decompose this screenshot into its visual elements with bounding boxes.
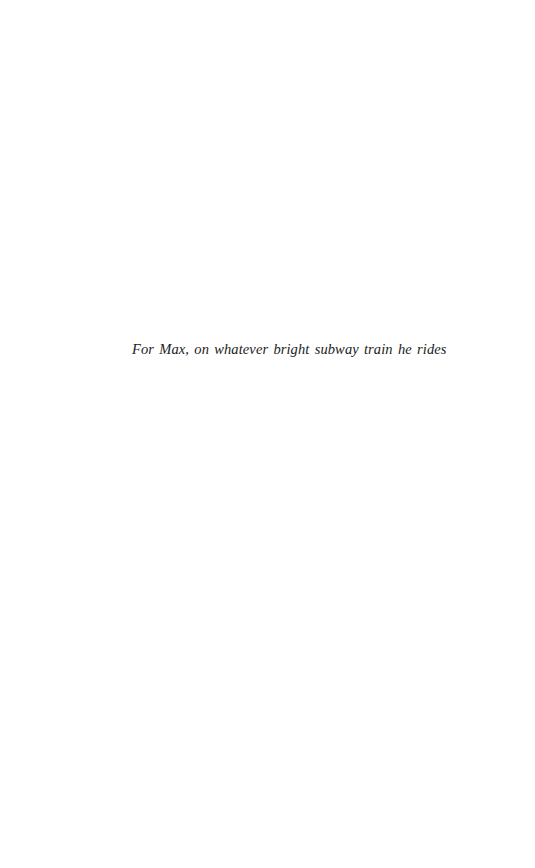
dedication-text: For Max, on whatever bright subway train… [132, 341, 447, 358]
book-page: For Max, on whatever bright subway train… [0, 0, 535, 868]
